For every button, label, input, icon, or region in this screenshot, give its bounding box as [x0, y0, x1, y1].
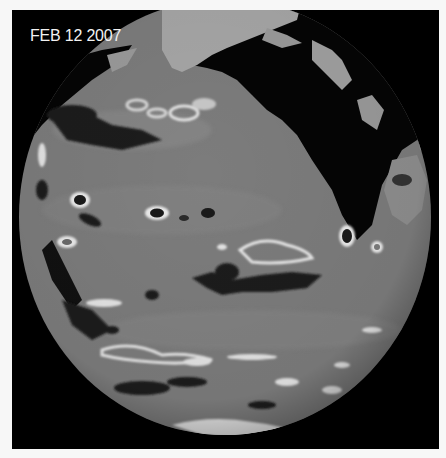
- globe-image: [12, 10, 439, 449]
- date-label: FEB 12 2007: [30, 27, 121, 45]
- visualization-panel: FEB 12 2007: [12, 10, 439, 449]
- globe: [12, 10, 439, 449]
